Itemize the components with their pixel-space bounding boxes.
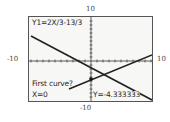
y-readout: Y=-4.333333 xyxy=(93,91,140,99)
x-max-label: 10 xyxy=(157,56,166,63)
equation-label: Y1=2X/3-13/3 xyxy=(32,19,83,27)
y-min-label: -10 xyxy=(80,105,91,112)
calculator-graph-screen: Y1=2X/3-13/3 First curve? X=0 Y=-4.33333… xyxy=(28,16,153,102)
graph-canvas xyxy=(29,17,152,101)
x-readout: X=0 xyxy=(32,91,48,99)
graph-line-increasing xyxy=(69,55,152,89)
trace-cursor xyxy=(89,77,93,81)
prompt-text: First curve? xyxy=(32,80,73,88)
y-max-label: 10 xyxy=(86,6,95,13)
x-min-label: -10 xyxy=(7,56,18,63)
